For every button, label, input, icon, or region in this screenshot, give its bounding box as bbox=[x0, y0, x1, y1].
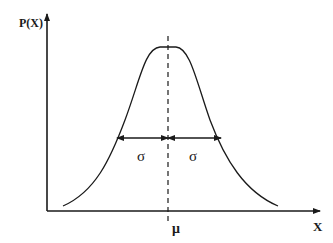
bell-curve bbox=[63, 47, 278, 206]
y-axis-label: P(X) bbox=[19, 16, 43, 30]
mean-label: μ bbox=[172, 221, 180, 236]
x-axis-label: X bbox=[313, 219, 323, 234]
normal-distribution-diagram: P(X) X μ σ σ bbox=[0, 0, 333, 243]
sigma-right-label: σ bbox=[189, 148, 197, 164]
sigma-left-label: σ bbox=[137, 148, 145, 164]
